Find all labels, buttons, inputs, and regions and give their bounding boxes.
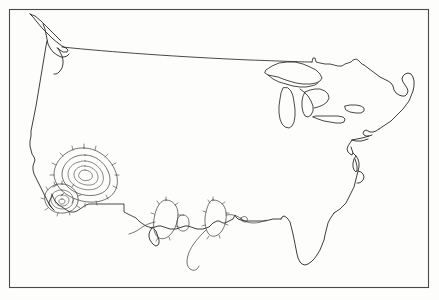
map-canvas [0,0,439,300]
map-background [0,0,439,300]
contour-map-figure [0,0,439,300]
